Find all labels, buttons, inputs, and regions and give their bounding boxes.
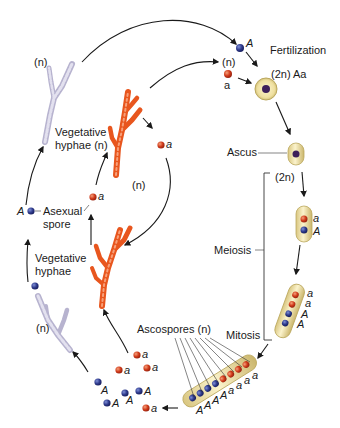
fertilization-label: Fertilization [270,44,326,56]
neurospora-life-cycle-diagram: A (n) a Fertilization (2n) Aa Ascus (2n)… [0,0,340,428]
ascus-ploidy-label: (2n) [275,171,295,183]
gamete-A [236,44,244,52]
arrow-orange-to-spore-a [143,118,152,128]
meiosis-label-A: A [312,225,320,237]
arrow-spore-a-to-orange-hyphae [125,158,170,245]
svg-text:A: A [195,404,203,416]
ascus-label: Ascus [227,146,257,158]
orange-hyphae-top [110,92,140,175]
svg-text:a: a [152,361,158,373]
zygote-label: (2n) Aa [271,68,307,80]
haploid-label-top-left: (n) [34,56,47,68]
released-ascospores: a a a A A A A a [94,348,158,414]
gamete-ploidy-label: (n) [222,56,235,68]
arrow-a-to-zygote [238,78,251,83]
arrow-a-spore-to-orange-hyphae [104,310,128,353]
arrow-asexual-A-to-top-grey [26,147,43,205]
arrow-A-to-zygote [246,52,257,66]
meiosis-label: Meiosis [214,244,252,256]
arrow-asexual-a-to-top-orange [96,153,107,185]
svg-text:A: A [203,399,211,411]
vegetative-hyphae-left-callout: Vegetative hyphae [31,252,86,290]
svg-text:a: a [252,369,258,381]
arrow-grey-hyphae-to-A [82,20,236,62]
asexual-spore-label: Asexual [43,205,82,217]
orange-hyphae-bottom [92,228,130,306]
mitosis-label: Mitosis [226,329,261,341]
asexual-a-label: a [98,190,104,202]
conidium-a-right: a [157,138,172,150]
haploid-label-bottom-left: (n) [36,322,49,334]
svg-text:a: a [244,374,250,386]
svg-text:a: a [236,379,242,391]
zygote-nucleus [262,85,270,93]
meiosis-label-a: a [313,212,319,224]
svg-text:A: A [111,397,119,409]
arrow-zygote-to-ascus [276,102,290,134]
ascospores-label: Ascospores (n) [137,323,211,335]
vegetative-hyphae-left-label-2: hyphae [35,265,71,277]
ascus-stage: Ascus (2n) [227,143,304,183]
arrow-orange-hyphae-to-a [150,62,218,88]
meiosis-bracket: Meiosis [214,173,272,340]
svg-text:a: a [166,138,172,150]
svg-text:A: A [211,394,219,406]
svg-text:A: A [100,384,108,396]
vegetative-hyphae-left-label: Vegetative [35,252,86,264]
vegetative-hyphae-top-label-2: hyphae (n) [55,139,108,151]
arrow-ascus-to-meiosis [302,172,304,196]
svg-text:A: A [125,394,133,406]
mitosis-stage: Mitosis [226,329,261,341]
gamete-a-label: a [224,79,231,91]
svg-text:a: a [142,348,148,360]
arrow-four-to-eight [258,344,268,358]
svg-text:A: A [219,389,227,401]
gamete-A-label: A [245,37,253,49]
gamete-a [224,70,232,78]
arrow-grey-to-asexual-A [27,240,28,282]
svg-text:A: A [296,318,304,330]
ascus-nucleus [293,151,300,158]
svg-text:a: a [228,384,234,396]
arrow-A-spore-to-grey-hyphae [73,352,88,372]
fertilization-stage: A (n) a Fertilization (2n) Aa [222,37,326,100]
svg-text:a: a [124,364,130,376]
haploid-label-inner: (n) [132,179,145,191]
arrow-meiosis-to-four [296,245,300,274]
spore-A-left [31,282,38,289]
asexual-spore-label-2: spore [43,218,71,230]
vegetative-hyphae-top-callout: Vegetative hyphae (n) [55,126,108,151]
svg-text:A: A [143,385,151,397]
asexual-spore-A [27,207,34,214]
meiosis-ascus-two: a A [296,206,320,242]
asexual-A-label: A [16,205,24,217]
asexual-spore-a [89,193,96,200]
svg-text:a: a [151,402,157,414]
vegetative-hyphae-top-label: Vegetative [55,126,106,138]
